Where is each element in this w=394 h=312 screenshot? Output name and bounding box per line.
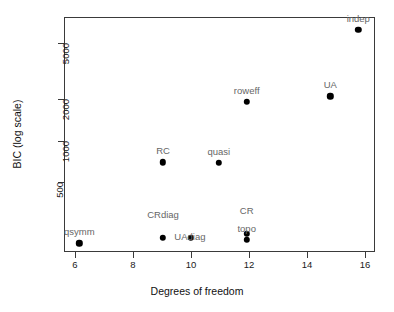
x-tick-mark <box>133 252 134 258</box>
x-tick-label: 16 <box>360 259 371 270</box>
data-point-label: topo <box>237 223 256 234</box>
x-tick-label: 12 <box>244 259 255 270</box>
y-tick-label: 1000 <box>60 141 71 162</box>
data-point-label: CRdiag <box>147 209 179 220</box>
plot-frame <box>64 17 375 252</box>
y-tick-label: 5000 <box>60 43 71 64</box>
data-point-label: quasi <box>207 146 230 157</box>
data-point-label: UA <box>324 79 337 90</box>
y-tick-label: 2000 <box>60 99 71 120</box>
data-point-label: qsymm <box>64 226 95 237</box>
x-tick-mark <box>307 252 308 258</box>
data-point-label: roweff <box>234 85 260 96</box>
data-point-label: RC <box>156 145 170 156</box>
x-tick-label: 8 <box>130 259 135 270</box>
data-point-label: CR <box>240 205 254 216</box>
x-tick-label: 6 <box>72 259 77 270</box>
x-tick-mark <box>75 252 76 258</box>
y-axis-title: BIC (log scale) <box>11 100 23 169</box>
x-tick-label: 10 <box>186 259 197 270</box>
x-tick-mark <box>191 252 192 258</box>
x-tick-mark <box>365 252 366 258</box>
y-tick-label: 500 <box>54 182 65 198</box>
x-tick-label: 14 <box>302 259 313 270</box>
x-tick-mark <box>249 252 250 258</box>
scatter-plot-figure: 6 8 10 12 14 16 500 1000 2000 5000 Degre… <box>0 0 394 312</box>
data-point-label: UAdiag <box>174 231 205 242</box>
data-point-label: indep <box>347 13 370 24</box>
x-axis-title: Degrees of freedom <box>0 285 394 297</box>
